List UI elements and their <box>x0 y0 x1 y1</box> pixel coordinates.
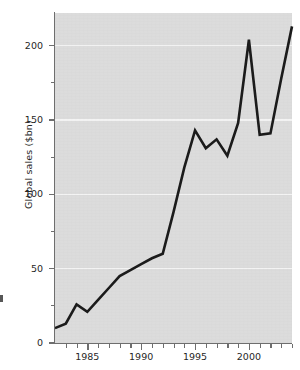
x-tick-minor-1997 <box>217 344 218 348</box>
line-path <box>55 26 292 328</box>
series-line-global-sales <box>55 13 292 343</box>
y-tick-label-50: 50 <box>9 263 43 274</box>
chart-figure: Global sales ($bn) 050100150200 19851990… <box>0 0 300 370</box>
x-tick-label-1995: 1995 <box>175 351 215 362</box>
edge-artifact <box>0 295 3 302</box>
x-tick-minor-1987 <box>109 344 110 348</box>
x-tick-minor-1994 <box>184 344 185 348</box>
y-axis-label: Global sales ($bn) <box>23 90 34 240</box>
x-tick-minor-1996 <box>206 344 207 348</box>
x-tick-label-1990: 1990 <box>121 351 161 362</box>
x-tick-2000 <box>249 344 250 350</box>
y-tick-150 <box>49 119 55 120</box>
y-tick-minor-175 <box>51 82 55 83</box>
y-tick-label-150: 150 <box>9 114 43 125</box>
y-tick-minor-25 <box>51 305 55 306</box>
x-tick-minor-1984 <box>77 344 78 348</box>
y-tick-minor-125 <box>51 157 55 158</box>
plot-area <box>55 13 292 343</box>
y-tick-label-0: 0 <box>9 337 43 348</box>
x-tick-minor-1999 <box>238 344 239 348</box>
x-tick-1990 <box>141 344 142 350</box>
x-tick-1985 <box>87 344 88 350</box>
x-tick-label-1985: 1985 <box>67 351 107 362</box>
y-tick-0 <box>49 342 55 343</box>
x-tick-minor-1986 <box>98 344 99 348</box>
x-tick-minor-1988 <box>120 344 121 348</box>
x-tick-label-2000: 2000 <box>229 351 269 362</box>
x-tick-minor-1991 <box>152 344 153 348</box>
y-tick-50 <box>49 268 55 269</box>
x-tick-minor-1992 <box>163 344 164 348</box>
y-tick-100 <box>49 194 55 195</box>
x-tick-minor-1998 <box>227 344 228 348</box>
x-tick-1995 <box>195 344 196 350</box>
x-tick-minor-2001 <box>260 344 261 348</box>
x-tick-minor-1983 <box>66 344 67 348</box>
y-tick-200 <box>49 45 55 46</box>
y-axis-line <box>54 12 55 344</box>
y-tick-minor-75 <box>51 231 55 232</box>
x-tick-minor-2003 <box>281 344 282 348</box>
x-tick-minor-2002 <box>270 344 271 348</box>
x-tick-minor-1993 <box>174 344 175 348</box>
x-tick-minor-2004 <box>292 344 293 348</box>
x-tick-minor-1989 <box>130 344 131 348</box>
y-tick-label-200: 200 <box>9 40 43 51</box>
y-tick-label-100: 100 <box>9 188 43 199</box>
